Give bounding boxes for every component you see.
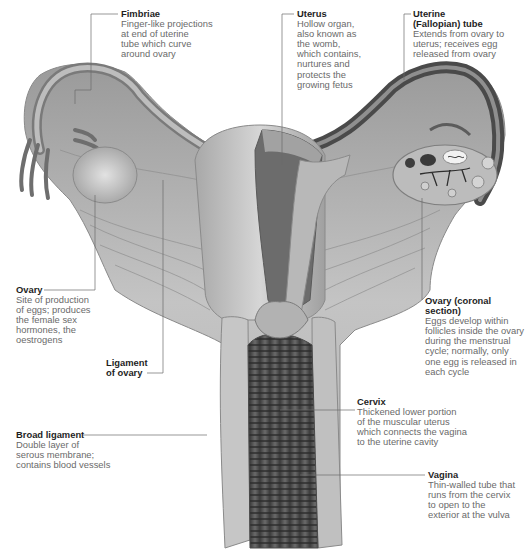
label-description: Thin-walled tube that runs from the cerv… (428, 480, 515, 520)
label-title: Ligament of ovary (106, 358, 148, 378)
label-ligament-of-ovary: Ligament of ovary (106, 358, 148, 378)
label-description: Thickened lower portion of the muscular … (357, 407, 467, 447)
label-uterine-tube: Uterine (Fallopian) tube Extends from ov… (413, 9, 504, 59)
label-uterus: Uterus Hollow organ, also known as the w… (297, 9, 361, 90)
label-description: Eggs develop within follicles inside the… (425, 316, 524, 377)
label-description: Extends from ovary to uterus; receives e… (413, 29, 504, 59)
label-description: Site of production of eggs; produces the… (16, 295, 91, 345)
label-description: Double layer of serous membrane; contain… (16, 440, 110, 470)
vagina-left-wall (220, 317, 250, 548)
label-ovary-coronal: Ovary (coronal section) Eggs develop wit… (425, 296, 524, 377)
label-description: Hollow organ, also known as the womb, wh… (297, 19, 361, 90)
vaginal-canal (248, 334, 318, 548)
label-description: Finger-like projections at end of uterin… (121, 19, 213, 59)
label-fimbriae: Fimbriae Finger-like projections at end … (121, 9, 213, 59)
label-title: Uterine (Fallopian) tube (413, 9, 504, 29)
label-ovary: Ovary Site of production of eggs; produc… (16, 285, 91, 346)
anatomy-diagram: Fimbriae Finger-like projections at end … (0, 0, 527, 555)
label-vagina: Vagina Thin-walled tube that runs from t… (428, 470, 515, 520)
label-title: Ovary (coronal section) (425, 296, 524, 316)
left-ovary (73, 147, 137, 203)
right-ovary-section (393, 145, 497, 205)
label-cervix: Cervix Thickened lower portion of the mu… (357, 397, 467, 447)
label-broad-ligament: Broad ligament Double layer of serous me… (16, 430, 110, 470)
